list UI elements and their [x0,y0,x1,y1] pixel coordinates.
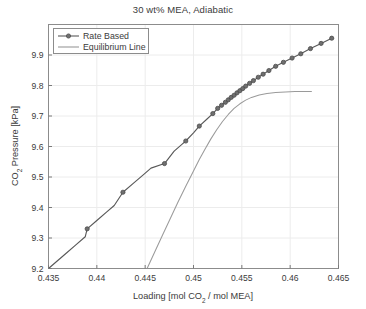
x-tick-label: 0.45 [185,273,202,283]
chart-legend: Rate Based Equilibrium Line [54,29,149,54]
y-tick-label: 9.4 [32,203,44,213]
y-tick-label: 9.3 [32,233,44,243]
series-marker [261,72,265,76]
series-marker [308,47,312,51]
series-marker [184,139,188,143]
series-marker [197,124,201,128]
series-marker [211,111,215,115]
y-tick-label: 9.6 [32,142,44,152]
y-tick-label: 9.9 [32,50,44,60]
series-marker [216,106,220,110]
series-marker [274,64,278,68]
series-marker [162,161,166,165]
series-line-rate-based [49,38,332,268]
series-marker [244,84,248,88]
x-axis-title: Loading [mol CO2 / mol MEA] [133,291,253,304]
y-axis-title: CO2 Pressure [kPa] [10,106,23,186]
series-marker [299,52,303,56]
series-marker [256,75,260,79]
y-tick-label: 9.8 [32,81,44,91]
x-tick-label: 0.465 [328,273,350,283]
series-marker [281,60,285,64]
legend-label-equilibrium: Equilibrium Line [83,42,146,52]
series-marker [121,190,125,194]
series-marker [251,79,255,83]
x-tick-label: 0.445 [134,273,156,283]
series-marker [219,103,223,107]
gridlines [49,25,339,269]
legend-label-rate-based: Rate Based [83,31,129,41]
y-tick-label: 9.5 [32,172,44,182]
series-marker [319,41,323,45]
y-tick-label: 9.7 [32,111,44,121]
data-series-layer [49,36,334,268]
x-axis-ticks: 0.4350.440.4450.450.4550.460.465 [38,265,350,283]
series-marker [85,227,89,231]
series-marker [330,36,334,40]
chart-plot: 0.4350.440.4450.450.4550.460.465 9.29.39… [0,0,366,309]
chart-figure: 30 wt% MEA, Adiabatic 0.4350.440.4450.45… [0,0,366,309]
x-tick-label: 0.455 [231,273,253,283]
y-tick-label: 9.2 [32,264,44,274]
legend-marker-rate-based [66,34,70,38]
series-line-equilibrium-line [147,91,311,268]
series-marker [247,81,251,85]
series-marker [290,56,294,60]
x-tick-label: 0.44 [88,273,105,283]
x-tick-label: 0.435 [38,273,60,283]
x-tick-label: 0.46 [282,273,299,283]
series-marker [267,68,271,72]
